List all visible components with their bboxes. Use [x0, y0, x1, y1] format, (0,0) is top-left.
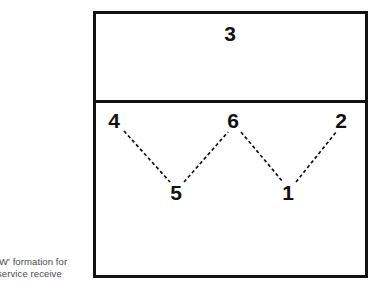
player-position-5: 5 [165, 182, 187, 203]
figure-caption: 'W' formation for service receive [0, 256, 89, 279]
player-position-1: 1 [277, 182, 299, 203]
caption-line-2: service receive [0, 268, 89, 280]
player-position-4: 4 [103, 110, 125, 131]
attack-line [96, 100, 365, 103]
player-position-2: 2 [330, 110, 352, 131]
figure-canvas: 3 4 6 2 5 1 'W' formation for service re… [0, 0, 383, 296]
volleyball-court [93, 11, 368, 278]
player-position-3: 3 [219, 23, 241, 44]
player-position-6: 6 [222, 110, 244, 131]
caption-line-1: 'W' formation for [0, 256, 89, 268]
